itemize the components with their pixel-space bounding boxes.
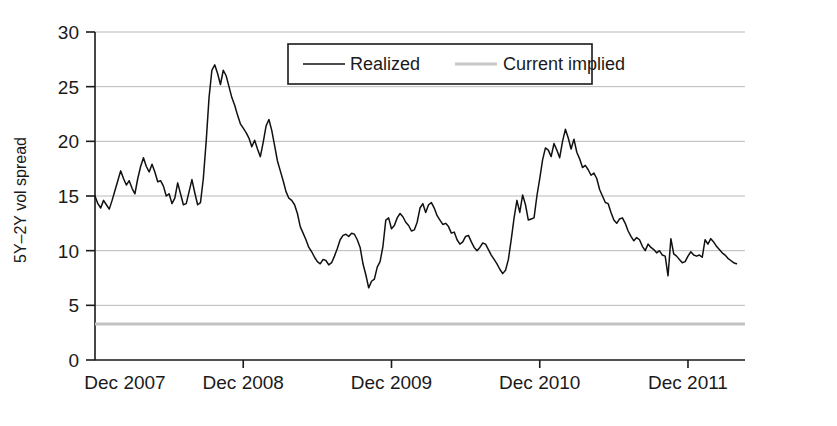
- y-tick-label-25: 25: [58, 77, 79, 98]
- y-tick-label-group: 051015202530: [58, 22, 79, 371]
- x-tick-group: [243, 360, 688, 368]
- legend-label-realized: Realized: [350, 54, 420, 74]
- x-tick-label-1: Dec 2008: [203, 372, 284, 393]
- x-tick-label-0: Dec 2007: [84, 372, 165, 393]
- x-tick-label-group: Dec 2007Dec 2008Dec 2009Dec 2010Dec 2011: [84, 372, 728, 393]
- x-tick-label-3: Dec 2010: [499, 372, 580, 393]
- x-tick-label-2: Dec 2009: [351, 372, 432, 393]
- y-tick-label-30: 30: [58, 22, 79, 43]
- y-tick-label-15: 15: [58, 186, 79, 207]
- y-tick-label-0: 0: [68, 350, 79, 371]
- vol-spread-line-chart: 051015202530 Dec 2007Dec 2008Dec 2009Dec…: [0, 0, 837, 426]
- y-tick-group: [86, 32, 95, 360]
- y-tick-label-10: 10: [58, 241, 79, 262]
- y-axis-title: 5Y–2Y vol spread: [12, 137, 29, 263]
- series-line-realized: [95, 65, 736, 288]
- legend-label-current-implied: Current implied: [503, 54, 625, 74]
- chart-figure: 051015202530 Dec 2007Dec 2008Dec 2009Dec…: [0, 0, 837, 426]
- y-tick-label-5: 5: [68, 295, 79, 316]
- x-tick-label-4: Dec 2011: [648, 372, 728, 393]
- chart-legend: Realized Current implied: [288, 44, 625, 84]
- y-tick-label-20: 20: [58, 131, 79, 152]
